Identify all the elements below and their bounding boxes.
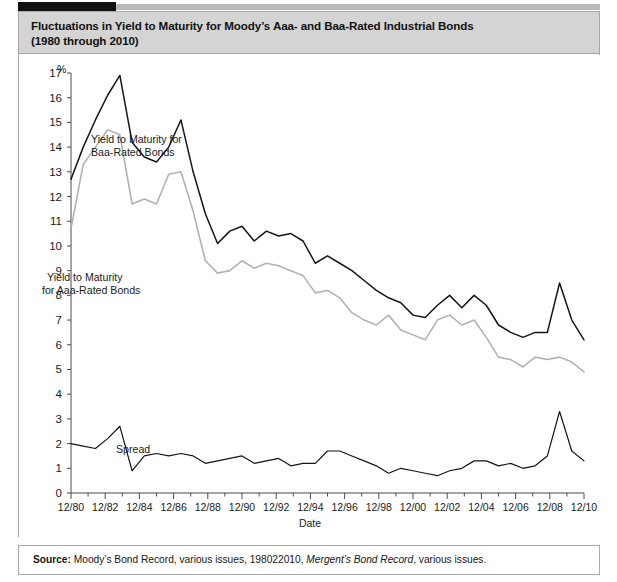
source-text-italic: Mergent’s Bond Record <box>306 554 413 565</box>
aaa-annotation: Yield to Maturity for Aaa-Rated Bonds <box>42 271 140 296</box>
title-band: Fluctuations in Yield to Maturity for Mo… <box>19 12 599 54</box>
x-tick-label: 12/90 <box>229 501 255 513</box>
y-axis: 01234567891011121314151617 <box>49 67 71 499</box>
source-text-part2: , various issues. <box>413 554 486 565</box>
y-axis-unit-label: % <box>57 63 66 75</box>
x-tick-label: 12/82 <box>92 501 118 513</box>
x-tick-label: 12/86 <box>160 501 186 513</box>
x-tick-label: 12/96 <box>331 501 357 513</box>
spread-annotation: Spread <box>116 443 150 455</box>
x-axis-title: Date <box>299 517 321 529</box>
aaa-annotation-line2: for Aaa-Rated Bonds <box>42 284 140 296</box>
source-band: Source: Moody’s Bond Record, various iss… <box>18 545 600 575</box>
source-note: Source: Moody’s Bond Record, various iss… <box>33 554 486 565</box>
y-tick-label: 4 <box>56 388 63 400</box>
plot-area: 01234567891011121314151617 12/8012/8212/… <box>19 55 601 537</box>
x-tick-label: 12/06 <box>502 501 528 513</box>
line-chart-svg: 01234567891011121314151617 12/8012/8212/… <box>19 55 601 537</box>
x-tick-label: 12/80 <box>58 501 84 513</box>
x-tick-label: 12/00 <box>400 501 426 513</box>
x-tick-label: 12/04 <box>468 501 494 513</box>
baa-annotation-line2: Baa-Rated Bonds <box>91 146 175 158</box>
y-tick-label: 10 <box>49 240 62 252</box>
y-tick-label: 13 <box>49 166 62 178</box>
y-tick-label: 3 <box>56 413 62 425</box>
x-tick-label: 12/10 <box>571 501 597 513</box>
y-tick-label: 16 <box>49 92 62 104</box>
figure-title-line2: (1980 through 2010) <box>31 33 591 48</box>
decorative-grey-bar <box>116 4 600 10</box>
y-tick-label: 14 <box>49 141 62 153</box>
aaa-annotation-line1: Yield to Maturity <box>47 271 123 283</box>
baa-annotation: Yield to Maturity for Baa-Rated Bonds <box>91 133 182 158</box>
x-tick-label: 12/98 <box>366 501 392 513</box>
source-label: Source: <box>33 554 71 565</box>
y-tick-label: 5 <box>56 363 62 375</box>
source-text-part1: Moody’s Bond Record, various issues, 198… <box>71 554 306 565</box>
y-tick-label: 15 <box>49 116 62 128</box>
y-tick-label: 11 <box>50 215 62 227</box>
x-tick-label: 12/08 <box>537 501 563 513</box>
figure-container: Fluctuations in Yield to Maturity for Mo… <box>0 0 617 582</box>
figure-title: Fluctuations in Yield to Maturity for Mo… <box>31 18 591 48</box>
y-tick-label: 7 <box>56 314 62 326</box>
x-tick-label: 12/02 <box>434 501 460 513</box>
aaa-yield-line <box>71 130 584 372</box>
spread-annotation-label: Spread <box>116 443 150 455</box>
decorative-black-bar <box>18 2 116 11</box>
x-tick-label: 12/92 <box>263 501 289 513</box>
x-axis: 12/8012/8212/8412/8612/8812/9012/9212/94… <box>58 493 597 513</box>
y-tick-label: 0 <box>56 487 62 499</box>
y-tick-label: 6 <box>56 339 62 351</box>
y-tick-label: 12 <box>49 191 62 203</box>
x-tick-label: 12/88 <box>195 501 221 513</box>
y-tick-label: 1 <box>56 462 62 474</box>
x-tick-label: 12/94 <box>297 501 323 513</box>
figure-title-line1: Fluctuations in Yield to Maturity for Mo… <box>31 19 474 32</box>
y-tick-label: 2 <box>56 438 62 450</box>
baa-yield-line <box>71 75 584 339</box>
chart-frame: Fluctuations in Yield to Maturity for Mo… <box>18 11 600 537</box>
baa-annotation-line1: Yield to Maturity for <box>91 133 182 145</box>
x-tick-label: 12/84 <box>126 501 152 513</box>
